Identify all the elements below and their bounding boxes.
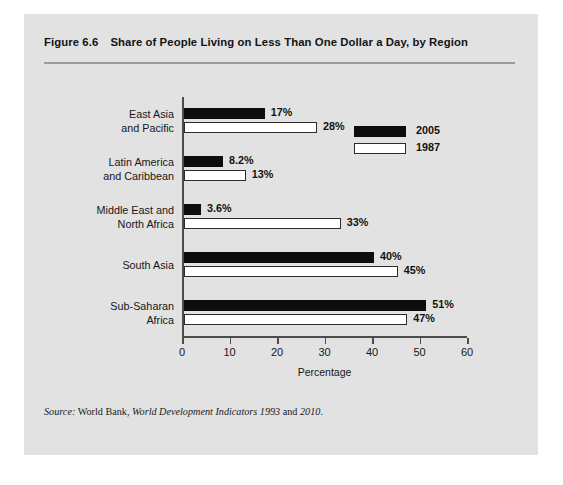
legend-swatch	[354, 143, 406, 154]
legend-swatch	[354, 126, 406, 137]
bar-2005	[184, 156, 223, 167]
source-publication: World Development Indicators 1993	[132, 406, 280, 417]
bar-chart: 0102030405060 Percentage East Asiaand Pa…	[24, 14, 538, 455]
category-label-line: Sub-Saharan	[14, 300, 174, 314]
source-period: .	[320, 406, 323, 417]
legend-label: 1987	[416, 141, 440, 153]
bar-1987	[184, 266, 398, 277]
bar-1987	[184, 218, 341, 229]
chart-category-group: Middle East andNorth Africa3.6%33%	[24, 198, 538, 246]
category-label: East Asiaand Pacific	[14, 108, 174, 135]
figure-panel: Figure 6.6Share of People Living on Less…	[24, 14, 538, 455]
x-tick-label: 10	[223, 346, 235, 358]
category-label: Sub-SaharanAfrica	[14, 300, 174, 327]
bar-value-label: 28%	[323, 120, 345, 132]
x-tick-label: 20	[271, 346, 283, 358]
bar-value-label: 40%	[380, 250, 402, 262]
source-conjunction: and	[280, 406, 300, 417]
bar-1987	[184, 122, 317, 133]
source-year: 2010	[300, 406, 320, 417]
bar-2005	[184, 300, 426, 311]
category-label-line: East Asia	[14, 108, 174, 122]
x-tick-label: 30	[318, 346, 330, 358]
category-label-line: and Caribbean	[14, 170, 174, 184]
x-tick-label: 40	[366, 346, 378, 358]
x-tick-label: 50	[413, 346, 425, 358]
legend-item: 1987	[354, 141, 464, 158]
source-label: Source:	[44, 406, 75, 417]
bar-2005	[184, 204, 201, 215]
bar-1987	[184, 170, 246, 181]
category-label-line: Latin America	[14, 156, 174, 170]
source-note: Source: World Bank, World Development In…	[44, 406, 323, 417]
bar-value-label: 51%	[432, 298, 454, 310]
bar-1987	[184, 314, 407, 325]
category-label: Middle East andNorth Africa	[14, 204, 174, 231]
bar-2005	[184, 108, 265, 119]
category-label-line: Middle East and	[14, 204, 174, 218]
category-label-line: and Pacific	[14, 122, 174, 136]
bar-value-label: 17%	[271, 106, 293, 118]
bar-value-label: 45%	[404, 264, 426, 276]
category-label: Latin Americaand Caribbean	[14, 156, 174, 183]
bar-value-label: 3.6%	[207, 202, 232, 214]
category-label: South Asia	[14, 259, 174, 273]
bar-2005	[184, 252, 374, 263]
category-label-line: North Africa	[14, 218, 174, 232]
bar-value-label: 33%	[347, 216, 369, 228]
chart-category-group: Sub-SaharanAfrica51%47%	[24, 294, 538, 342]
chart-legend: 20051987	[354, 124, 464, 158]
category-label-line: South Asia	[14, 259, 174, 273]
category-label-line: Africa	[14, 314, 174, 328]
bar-value-label: 13%	[252, 168, 274, 180]
x-axis-title: Percentage	[182, 366, 467, 378]
bar-value-label: 8.2%	[229, 154, 254, 166]
bar-value-label: 47%	[413, 312, 435, 324]
chart-category-group: South Asia40%45%	[24, 246, 538, 294]
legend-label: 2005	[416, 124, 440, 136]
x-tick-label: 0	[179, 346, 185, 358]
x-tick-label: 60	[461, 346, 473, 358]
legend-item: 2005	[354, 124, 464, 141]
source-publisher: World Bank,	[75, 406, 132, 417]
